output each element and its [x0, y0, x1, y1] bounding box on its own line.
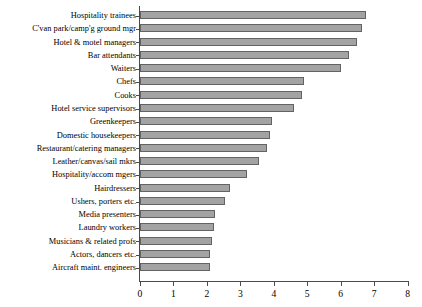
bar-row: Leather/canvas/sail mkrs	[140, 155, 408, 168]
x-axis-tick-label: 3	[230, 288, 250, 300]
category-label: Hotel & motel managers	[5, 36, 136, 49]
category-label: Waiters	[5, 62, 136, 75]
x-axis-tick	[140, 281, 141, 286]
x-axis-tick-label: 1	[163, 288, 183, 300]
category-label: Hospitality/accom mgers	[5, 168, 136, 181]
bar	[140, 210, 215, 218]
x-axis-tick	[274, 281, 275, 286]
bar-row: Laundry workers	[140, 221, 408, 234]
bar	[140, 237, 212, 245]
category-label: Restaurant/catering managers	[5, 142, 136, 155]
category-label: Bar attendants	[5, 49, 136, 62]
x-axis-tick	[374, 281, 375, 286]
bar	[140, 263, 210, 271]
category-label: Greenkeepers	[5, 115, 136, 128]
bar-row: Hairdressers	[140, 182, 408, 195]
bar	[140, 91, 302, 99]
x-axis-tick-label: 2	[197, 288, 217, 300]
category-label: Ushers, porters etc.	[5, 195, 136, 208]
category-label: Laundry workers	[5, 221, 136, 234]
bar-row: Musicians & related profs	[140, 235, 408, 248]
category-label: Actors, dancers etc.	[5, 248, 136, 261]
bar	[140, 11, 366, 19]
bar	[140, 77, 304, 85]
bar-row: Hotel service supervisors	[140, 102, 408, 115]
bar	[140, 38, 357, 46]
category-label: Hospitality trainees	[5, 9, 136, 22]
x-axis-tick-label: 8	[398, 288, 418, 300]
bar-row: Hospitality/accom mgers	[140, 168, 408, 181]
bar-row: Bar attendants	[140, 49, 408, 62]
category-label: Domestic housekeepers	[5, 129, 136, 142]
bar	[140, 131, 270, 139]
bar-row: Media presenters	[140, 208, 408, 221]
x-axis-tick	[173, 281, 174, 286]
x-axis-tick	[408, 281, 409, 286]
bar	[140, 223, 214, 231]
bar	[140, 184, 230, 192]
category-label: Musicians & related profs	[5, 235, 136, 248]
bar	[140, 117, 272, 125]
bar-row: Greenkeepers	[140, 115, 408, 128]
bar	[140, 170, 247, 178]
bar-row: Ushers, porters etc.	[140, 195, 408, 208]
bar-row: Aircraft maint. engineers	[140, 261, 408, 274]
x-axis-tick-label: 4	[264, 288, 284, 300]
category-label: Aircraft maint. engineers	[5, 261, 136, 274]
bar-row: Cooks	[140, 89, 408, 102]
bar	[140, 250, 210, 258]
x-axis-tick-label: 7	[364, 288, 384, 300]
bar-row: Domestic housekeepers	[140, 129, 408, 142]
x-axis-tick	[240, 281, 241, 286]
bar-row: Waiters	[140, 62, 408, 75]
bar-row: C'van park/camp'g ground mgr	[140, 22, 408, 35]
category-label: Chefs	[5, 75, 136, 88]
x-axis-tick-label: 6	[331, 288, 351, 300]
category-label: Media presenters	[5, 208, 136, 221]
bar-row: Actors, dancers etc.	[140, 248, 408, 261]
bar	[140, 104, 294, 112]
x-axis-tick-label: 0	[130, 288, 150, 300]
bar-row: Chefs	[140, 75, 408, 88]
category-label: Cooks	[5, 89, 136, 102]
x-axis-tick-label: 5	[297, 288, 317, 300]
bar	[140, 64, 341, 72]
x-axis-tick	[207, 281, 208, 286]
bar-row: Hospitality trainees	[140, 9, 408, 22]
bar	[140, 144, 267, 152]
bar	[140, 51, 349, 59]
category-label: Leather/canvas/sail mkrs	[5, 155, 136, 168]
bar-row: Hotel & motel managers	[140, 36, 408, 49]
plot-area: Hospitality traineesC'van park/camp'g gr…	[140, 6, 408, 281]
bar	[140, 24, 362, 32]
category-label: C'van park/camp'g ground mgr	[5, 22, 136, 35]
bar-chart: Hospitality traineesC'van park/camp'g gr…	[0, 0, 422, 307]
x-axis-tick	[341, 281, 342, 286]
category-label: Hairdressers	[5, 182, 136, 195]
bar	[140, 157, 259, 165]
x-axis-tick	[307, 281, 308, 286]
bar	[140, 197, 225, 205]
bar-row: Restaurant/catering managers	[140, 142, 408, 155]
category-label: Hotel service supervisors	[5, 102, 136, 115]
